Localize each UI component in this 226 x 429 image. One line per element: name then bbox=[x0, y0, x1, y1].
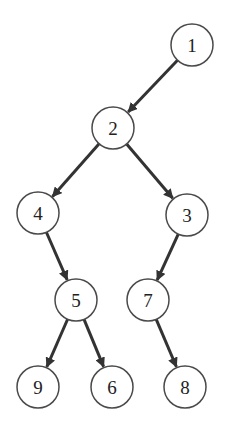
node-label: 4 bbox=[33, 203, 43, 224]
tree-node-9: 9 bbox=[17, 366, 59, 408]
edge-5-to-6 bbox=[84, 319, 104, 366]
edge-7-to-8 bbox=[156, 319, 176, 366]
tree-node-6: 6 bbox=[91, 366, 133, 408]
tree-node-3: 3 bbox=[166, 194, 208, 236]
tree-node-2: 2 bbox=[92, 107, 134, 149]
tree-node-4: 4 bbox=[17, 192, 59, 234]
tree-node-7: 7 bbox=[127, 279, 169, 321]
edge-5-to-9 bbox=[47, 319, 68, 367]
edge-3-to-7 bbox=[157, 234, 178, 280]
node-label: 2 bbox=[108, 118, 118, 139]
tree-node-8: 8 bbox=[164, 366, 206, 408]
node-label: 3 bbox=[182, 205, 192, 226]
edge-1-to-2 bbox=[128, 60, 177, 112]
tree-diagram: 124357968 bbox=[0, 0, 226, 429]
tree-node-1: 1 bbox=[171, 24, 213, 66]
node-label: 8 bbox=[180, 377, 190, 398]
node-label: 5 bbox=[71, 290, 81, 311]
tree-canvas: 124357968 bbox=[0, 0, 226, 429]
edge-layer bbox=[46, 60, 178, 367]
node-label: 1 bbox=[187, 35, 197, 56]
edge-2-to-4 bbox=[53, 144, 100, 197]
edge-4-to-5 bbox=[46, 232, 67, 280]
edge-2-to-3 bbox=[127, 144, 173, 198]
node-label: 7 bbox=[143, 290, 153, 311]
node-label: 6 bbox=[107, 377, 117, 398]
node-layer: 124357968 bbox=[17, 24, 213, 408]
node-label: 9 bbox=[33, 377, 43, 398]
tree-node-5: 5 bbox=[55, 279, 97, 321]
